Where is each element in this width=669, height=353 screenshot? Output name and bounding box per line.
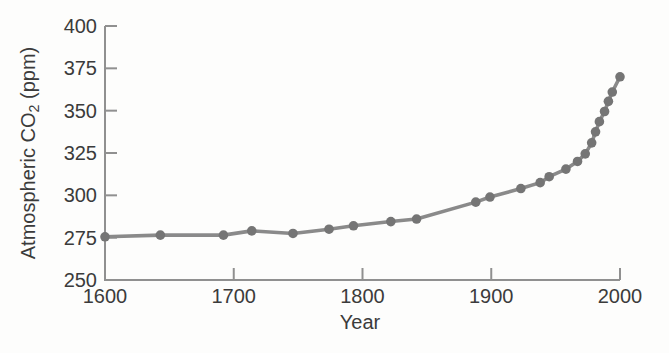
data-point: [600, 107, 610, 117]
y-tick-label: 375: [64, 57, 97, 79]
axes: [105, 26, 620, 280]
data-point: [349, 221, 359, 231]
y-axis-label-subscript: 2: [26, 105, 42, 113]
y-tick-label: 300: [64, 184, 97, 206]
y-tick-label: 400: [64, 15, 97, 37]
data-point: [219, 230, 229, 240]
data-point: [604, 97, 614, 107]
data-point: [580, 149, 590, 159]
data-point: [386, 217, 396, 227]
data-point: [485, 192, 495, 202]
y-axis-label: Atmospheric CO2 (ppm): [17, 11, 43, 295]
data-point: [573, 157, 583, 167]
co2-line-chart: 2502753003253503754001600170018001900200…: [0, 0, 669, 353]
data-point: [324, 224, 334, 234]
data-point: [100, 232, 110, 242]
data-point: [595, 117, 605, 127]
co2-trend-line: [105, 77, 620, 237]
co2-chart-figure: 2502753003253503754001600170018001900200…: [0, 0, 669, 353]
data-point: [288, 229, 298, 239]
data-point: [607, 87, 617, 97]
data-point: [156, 230, 166, 240]
data-point: [471, 197, 481, 207]
data-point: [247, 226, 257, 236]
data-point: [412, 214, 422, 224]
y-tick-label: 275: [64, 227, 97, 249]
data-point: [516, 184, 526, 194]
data-point: [615, 72, 625, 82]
data-point: [535, 178, 545, 188]
x-axis-label: Year: [105, 311, 615, 334]
y-tick-label: 325: [64, 142, 97, 164]
x-tick-label: 2000: [598, 285, 643, 307]
data-point: [587, 138, 597, 148]
data-point: [561, 164, 571, 174]
y-tick-label: 350: [64, 100, 97, 122]
x-tick-label: 1700: [212, 285, 257, 307]
x-tick-label: 1600: [83, 285, 128, 307]
data-point: [544, 172, 554, 182]
y-axis-label-units: (ppm): [17, 47, 39, 105]
data-point: [591, 127, 601, 137]
y-axis-label-text: Atmospheric CO: [17, 113, 39, 260]
x-tick-label: 1800: [340, 285, 385, 307]
x-tick-label: 1900: [469, 285, 514, 307]
